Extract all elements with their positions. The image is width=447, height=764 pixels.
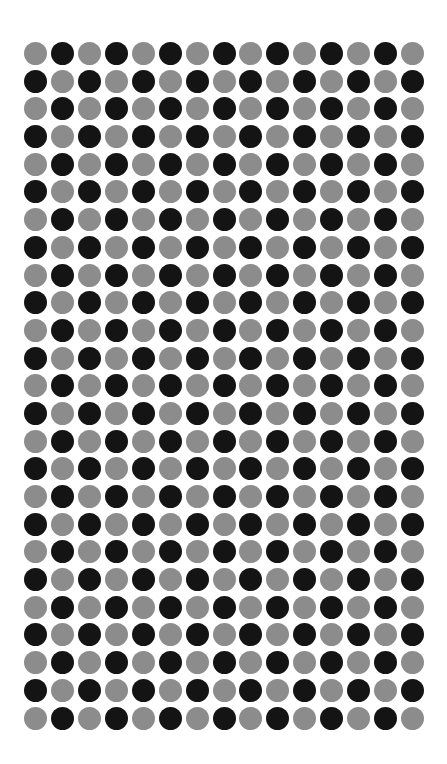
gray-dot bbox=[374, 180, 397, 203]
black-dot bbox=[186, 513, 209, 536]
gray-dot bbox=[78, 153, 101, 176]
black-dot bbox=[266, 264, 289, 287]
black-dot bbox=[24, 679, 47, 702]
gray-dot bbox=[78, 42, 101, 65]
black-dot bbox=[374, 153, 397, 176]
gray-dot bbox=[239, 596, 262, 619]
black-dot bbox=[266, 374, 289, 397]
gray-dot bbox=[24, 430, 47, 453]
black-dot bbox=[320, 540, 343, 563]
gray-dot bbox=[401, 374, 424, 397]
gray-dot bbox=[266, 457, 289, 480]
gray-dot bbox=[105, 180, 128, 203]
black-dot bbox=[78, 513, 101, 536]
gray-dot bbox=[266, 236, 289, 259]
gray-dot bbox=[293, 596, 316, 619]
black-dot bbox=[78, 568, 101, 591]
black-dot bbox=[347, 125, 370, 148]
black-dot bbox=[105, 485, 128, 508]
gray-dot bbox=[293, 42, 316, 65]
black-dot bbox=[24, 513, 47, 536]
black-dot bbox=[132, 623, 155, 646]
gray-dot bbox=[159, 347, 182, 370]
black-dot bbox=[293, 679, 316, 702]
gray-dot bbox=[347, 596, 370, 619]
gray-dot bbox=[239, 264, 262, 287]
gray-dot bbox=[132, 153, 155, 176]
black-dot bbox=[186, 180, 209, 203]
gray-dot bbox=[239, 707, 262, 730]
black-dot bbox=[24, 125, 47, 148]
gray-dot bbox=[213, 679, 236, 702]
black-dot bbox=[24, 291, 47, 314]
gray-dot bbox=[159, 70, 182, 93]
black-dot bbox=[374, 97, 397, 120]
gray-dot bbox=[186, 485, 209, 508]
black-dot bbox=[51, 208, 74, 231]
black-dot bbox=[159, 208, 182, 231]
black-dot bbox=[213, 153, 236, 176]
gray-dot bbox=[213, 568, 236, 591]
black-dot bbox=[51, 485, 74, 508]
black-dot bbox=[51, 430, 74, 453]
gray-dot bbox=[213, 236, 236, 259]
gray-dot bbox=[51, 402, 74, 425]
black-dot bbox=[266, 596, 289, 619]
black-dot bbox=[213, 430, 236, 453]
gray-dot bbox=[293, 97, 316, 120]
gray-dot bbox=[186, 264, 209, 287]
gray-dot bbox=[374, 125, 397, 148]
gray-dot bbox=[159, 513, 182, 536]
gray-dot bbox=[320, 513, 343, 536]
gray-dot bbox=[132, 264, 155, 287]
gray-dot bbox=[132, 42, 155, 65]
black-dot bbox=[24, 568, 47, 591]
black-dot bbox=[186, 347, 209, 370]
black-dot bbox=[105, 374, 128, 397]
gray-dot bbox=[347, 430, 370, 453]
black-dot bbox=[374, 596, 397, 619]
black-dot bbox=[347, 513, 370, 536]
black-dot bbox=[132, 291, 155, 314]
gray-dot bbox=[24, 42, 47, 65]
black-dot bbox=[78, 291, 101, 314]
black-dot bbox=[320, 430, 343, 453]
black-dot bbox=[186, 679, 209, 702]
gray-dot bbox=[293, 264, 316, 287]
black-dot bbox=[51, 319, 74, 342]
gray-dot bbox=[186, 319, 209, 342]
gray-dot bbox=[132, 485, 155, 508]
black-dot bbox=[186, 623, 209, 646]
gray-dot bbox=[105, 679, 128, 702]
gray-dot bbox=[51, 70, 74, 93]
black-dot bbox=[213, 42, 236, 65]
black-dot bbox=[51, 707, 74, 730]
gray-dot bbox=[78, 651, 101, 674]
black-dot bbox=[105, 430, 128, 453]
black-dot bbox=[266, 485, 289, 508]
black-dot bbox=[239, 291, 262, 314]
black-dot bbox=[213, 596, 236, 619]
gray-dot bbox=[239, 430, 262, 453]
black-dot bbox=[239, 402, 262, 425]
black-dot bbox=[105, 596, 128, 619]
gray-dot bbox=[105, 70, 128, 93]
black-dot bbox=[186, 402, 209, 425]
gray-dot bbox=[159, 125, 182, 148]
gray-dot bbox=[159, 291, 182, 314]
black-dot bbox=[293, 402, 316, 425]
black-dot bbox=[374, 707, 397, 730]
black-dot bbox=[293, 457, 316, 480]
black-dot bbox=[132, 70, 155, 93]
gray-dot bbox=[239, 208, 262, 231]
gray-dot bbox=[320, 180, 343, 203]
gray-dot bbox=[78, 208, 101, 231]
gray-dot bbox=[24, 485, 47, 508]
gray-dot bbox=[239, 42, 262, 65]
gray-dot bbox=[266, 402, 289, 425]
black-dot bbox=[105, 153, 128, 176]
gray-dot bbox=[213, 623, 236, 646]
gray-dot bbox=[159, 679, 182, 702]
black-dot bbox=[401, 679, 424, 702]
gray-dot bbox=[401, 208, 424, 231]
